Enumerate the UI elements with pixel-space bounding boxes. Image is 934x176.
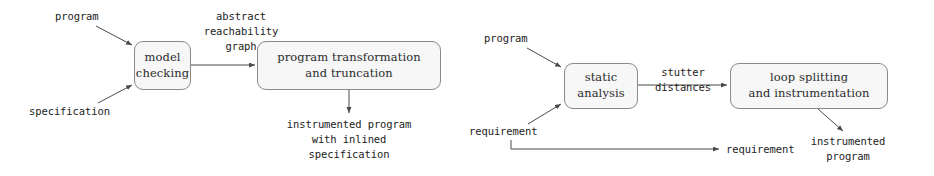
box-static-analysis[interactable]: static analysis	[564, 63, 638, 109]
label-left-output-line1: instrumented program	[279, 117, 419, 132]
label-instrumented-program-inlined-spec: instrumented program with inlined specif…	[279, 117, 419, 162]
box-program-transformation[interactable]: program transformation and truncation	[257, 41, 441, 90]
label-right-requirement-input: requirement	[469, 124, 537, 139]
arrow-requirement-passthrough	[511, 140, 719, 149]
box-static-analysis-line1: static	[585, 70, 618, 86]
label-stutter-distances: stutter distances	[645, 65, 721, 95]
arrow-specification-to-model-checking	[98, 85, 132, 103]
box-loop-splitting[interactable]: loop splitting and instrumentation	[730, 63, 888, 109]
label-left-specification: specification	[29, 104, 110, 119]
label-right-output-line1: instrumented	[806, 134, 890, 149]
label-left-program: program	[55, 9, 99, 24]
label-right-program: program	[484, 31, 528, 46]
arrow-program-to-static-analysis	[527, 48, 561, 67]
label-edge-line2: reachability	[193, 24, 289, 39]
arrow-loop-splitting-to-output	[818, 109, 843, 131]
label-left-output-line3: specification	[279, 147, 419, 162]
box-program-transformation-line1: program transformation	[277, 50, 421, 66]
label-right-requirement-output: requirement	[726, 142, 794, 157]
label-right-output-line2: program	[806, 149, 890, 164]
box-program-transformation-line2: and truncation	[305, 66, 393, 82]
box-model-checking-line1: model	[144, 50, 180, 66]
label-left-output-line2: with inlined	[279, 132, 419, 147]
arrow-program-to-model-checking	[96, 26, 132, 45]
box-static-analysis-line2: analysis	[577, 86, 625, 102]
box-loop-splitting-line2: and instrumentation	[749, 86, 870, 102]
label-right-instrumented-program: instrumented program	[806, 134, 890, 164]
arrow-requirement-to-static-analysis	[528, 104, 561, 124]
label-stutter-line2: distances	[645, 80, 721, 95]
box-model-checking-line2: checking	[136, 66, 189, 82]
box-loop-splitting-line1: loop splitting	[770, 70, 848, 86]
workflow-diagram-figure: program specification model checking abs…	[0, 0, 934, 176]
label-edge-line1: abstract	[193, 9, 289, 24]
box-model-checking[interactable]: model checking	[134, 41, 191, 90]
label-stutter-line1: stutter	[645, 65, 721, 80]
